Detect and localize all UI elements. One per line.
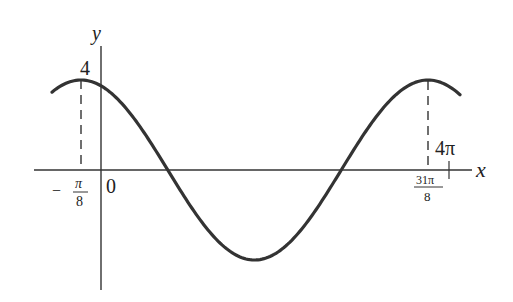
neg-pi-8-numerator: π — [75, 176, 83, 191]
31pi-numerator: 31π — [416, 173, 434, 187]
31pi-denominator: 8 — [424, 189, 431, 204]
origin-label: 0 — [106, 175, 116, 197]
cosine-graph: y x 4 0 − π 8 31π 8 4π — [0, 0, 513, 302]
neg-pi-8-denominator: 8 — [76, 194, 83, 209]
4pi-label: 4π — [435, 137, 455, 159]
x-axis-label: x — [475, 157, 486, 182]
y-axis-label: y — [90, 22, 101, 45]
y-max-label: 4 — [80, 57, 90, 79]
neg-sign: − — [52, 182, 61, 199]
